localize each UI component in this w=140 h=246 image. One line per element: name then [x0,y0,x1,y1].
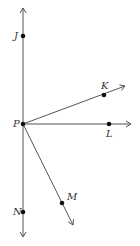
lines-layer [20,8,131,237]
point-P [21,122,26,127]
ray-PK-stroke [23,86,125,124]
label-M: M [66,191,78,202]
point-K [102,93,107,98]
geometry-diagram: J P K L M N [0,0,140,246]
ray-PM [23,124,73,225]
label-L: L [105,128,113,139]
ray-PM-stroke [23,124,73,225]
label-N: N [12,206,23,217]
point-L [107,122,112,127]
label-J: J [12,30,19,41]
ray-PL [23,121,131,127]
point-J [21,34,26,39]
ray-PK [23,85,125,124]
label-K: K [100,80,109,91]
point-M [60,201,65,206]
label-P: P [12,118,20,129]
